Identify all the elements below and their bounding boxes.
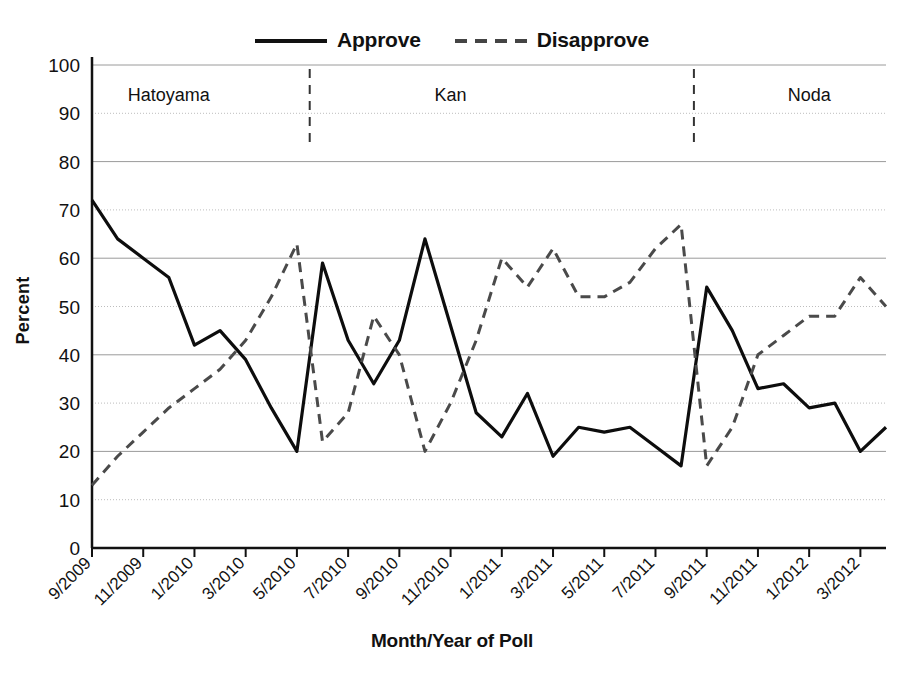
x-axis-tick-label: 5/2010 [250, 553, 300, 603]
y-axis-tick-label: 90 [59, 103, 80, 124]
y-axis-tick-label: 10 [59, 490, 80, 511]
x-axis-tick-label: 3/2010 [198, 553, 248, 603]
y-axis-tick-label: 20 [59, 441, 80, 462]
chart-plot-area: 01020304050607080901009/200911/20091/201… [0, 0, 904, 681]
era-label: Noda [788, 85, 832, 105]
x-axis-tick-label: 9/2010 [352, 553, 402, 603]
x-axis-tick-label: 9/2011 [660, 553, 709, 602]
era-label: Hatoyama [128, 85, 211, 105]
chart-container: Approve Disapprove Percent 0102030405060… [0, 0, 904, 681]
y-axis-tick-label: 60 [59, 248, 80, 269]
x-axis-tick-label: 11/2009 [90, 553, 146, 609]
y-axis-tick-label: 70 [59, 200, 80, 221]
y-axis-tick-label: 30 [59, 393, 80, 414]
x-axis-tick-label: 3/2011 [507, 553, 556, 602]
x-axis-tick-label: 9/2009 [45, 553, 95, 603]
y-axis-tick-label: 50 [59, 297, 80, 318]
y-axis-tick-label: 80 [59, 152, 80, 173]
x-axis-tick-label: 5/2011 [558, 553, 607, 602]
x-axis-tick-label: 7/2011 [609, 553, 658, 602]
x-axis-tick-label: 3/2012 [813, 553, 863, 603]
y-axis-tick-label: 100 [48, 55, 80, 76]
x-axis-tick-label: 7/2010 [301, 553, 351, 603]
series-line-approve [92, 200, 886, 466]
x-axis-tick-label: 1/2012 [762, 553, 812, 603]
x-axis-tick-label: 1/2011 [455, 553, 504, 602]
x-axis-tick-label: 11/2011 [706, 553, 761, 608]
y-axis-tick-label: 40 [59, 345, 80, 366]
x-axis-tick-label: 1/2010 [147, 553, 197, 603]
x-axis-title: Month/Year of Poll [0, 630, 904, 652]
x-axis-tick-label: 11/2010 [397, 553, 453, 609]
era-label: Kan [435, 85, 467, 105]
